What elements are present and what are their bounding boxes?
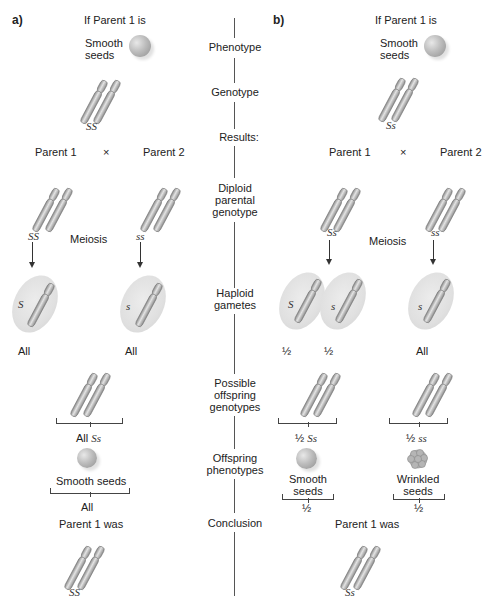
chromosome-pair-icon	[378, 70, 418, 130]
center-label-offspring-phenotypes-2: phenotypes	[195, 464, 275, 477]
smooth-seed-icon	[77, 448, 97, 468]
divider-line	[234, 479, 235, 513]
center-label-possible-3: genotypes	[195, 401, 275, 414]
panel-b-phenotype-line2: seeds	[380, 49, 409, 62]
bracket	[282, 494, 334, 500]
panel-b-offspring1-freq: ½	[302, 502, 311, 515]
panel-a-conclusion-genotype: SS	[69, 586, 80, 599]
panel-a-offspring-genotype-prefix: All	[76, 432, 88, 444]
panel-b-conclusion-label: Parent 1 was	[335, 518, 399, 531]
panel-b-premise: If Parent 1 is	[375, 14, 437, 27]
panel-a-parent1-genotype: SS	[28, 230, 39, 243]
divider-line	[234, 18, 235, 38]
gamete-chromosome-icon	[133, 280, 163, 330]
panel-b-parent1-genotype: Ss	[327, 226, 337, 239]
panel-b-gamete1-freq: ½	[282, 345, 291, 358]
panel-a-offspring-genotype-row: All Ss	[76, 432, 101, 445]
panel-b-offspring2-genotype: ss	[418, 432, 427, 444]
divider-line	[234, 416, 235, 449]
panel-b-gamete3-freq: All	[416, 345, 428, 358]
meiosis-arrow-icon	[433, 240, 434, 260]
bracket	[278, 418, 337, 424]
panel-a-offspring-phenotype-freq: All	[81, 501, 93, 514]
panel-a-phenotype-line2: seeds	[85, 49, 114, 62]
panel-b-offspring2-genotype-row: ½ ss	[406, 432, 427, 445]
parent2-chromosome-pair-icon	[140, 180, 180, 240]
panel-b-parent2-genotype: ss	[431, 226, 440, 239]
panel-b-conclusion-genotype: Ss	[345, 586, 355, 599]
panel-b-gamete1-allele: S	[288, 298, 294, 311]
bracket	[393, 494, 445, 500]
panel-a-gamete2-allele: s	[126, 300, 130, 313]
bracket	[50, 488, 130, 494]
panel-a-conclusion-label: Parent 1 was	[59, 518, 123, 531]
divider-line	[234, 532, 235, 596]
panel-b-meiosis: Meiosis	[369, 235, 406, 248]
panel-b-offspring2-prefix: ½	[406, 432, 415, 444]
center-label-diploid-3: genotype	[195, 206, 275, 219]
panel-b-label: b)	[273, 14, 284, 27]
wrinkled-seed-icon	[406, 447, 430, 471]
parent1-chromosome-pair-icon	[320, 180, 360, 240]
panel-b-offspring1-prefix: ½	[295, 432, 304, 444]
divider-line	[234, 58, 235, 83]
panel-a-gamete2-freq: All	[125, 345, 137, 358]
panel-b-genotype: Ss	[386, 119, 396, 132]
smooth-seed-icon	[424, 35, 446, 57]
panel-b-gamete2-allele: s	[331, 300, 335, 313]
panel-a-premise: If Parent 1 is	[84, 14, 146, 27]
offspring2-chromosome-pair-icon	[412, 365, 452, 425]
meiosis-arrow-icon	[32, 242, 33, 263]
panel-a-offspring-phenotype: Smooth seeds	[56, 475, 126, 488]
panel-b-gamete3-allele: s	[418, 300, 422, 313]
center-label-genotype: Genotype	[195, 86, 275, 99]
bracket	[56, 418, 123, 424]
offspring-chromosome-pair-icon	[70, 365, 110, 425]
gamete-chromosome-icon	[25, 280, 55, 330]
smooth-seed-icon	[129, 35, 151, 57]
center-label-results: Results:	[199, 131, 279, 144]
panel-a-label: a)	[12, 14, 23, 27]
panel-a-cross: ×	[103, 146, 109, 159]
panel-a-genotype: SS	[86, 120, 97, 133]
smooth-seed-icon	[296, 448, 317, 469]
offspring1-chromosome-pair-icon	[300, 365, 340, 425]
panel-a-offspring-genotype: Ss	[91, 432, 101, 444]
center-label-conclusion: Conclusion	[195, 517, 275, 530]
panel-b-offspring1-genotype: Ss	[307, 432, 317, 444]
gamete-chromosome-icon	[292, 276, 322, 326]
panel-a-parent1: Parent 1	[35, 146, 77, 159]
gamete-chromosome-icon	[333, 276, 363, 326]
gamete-chromosome-icon	[421, 276, 451, 326]
meiosis-arrow-icon	[329, 240, 330, 260]
divider-line	[234, 146, 235, 178]
meiosis-arrow-icon	[140, 242, 141, 263]
bracket	[389, 418, 448, 424]
panel-b-cross: ×	[400, 146, 406, 159]
panel-b-parent1: Parent 1	[329, 146, 371, 159]
panel-a-gamete1-allele: S	[18, 298, 24, 311]
divider-line	[234, 102, 235, 129]
panel-a-parent2: Parent 2	[143, 146, 185, 159]
divider-line	[234, 314, 235, 374]
center-label-haploid-2: gametes	[195, 299, 275, 312]
panel-b-gamete2-freq: ½	[324, 345, 333, 358]
center-label-phenotype: Phenotype	[195, 41, 275, 54]
panel-b-offspring1-genotype-row: ½ Ss	[295, 432, 317, 445]
panel-b-parent2: Parent 2	[440, 146, 482, 159]
panel-a-meiosis: Meiosis	[70, 233, 107, 246]
divider-line	[234, 222, 235, 288]
panel-b-offspring2-freq: ½	[414, 502, 423, 515]
panel-a-gamete1-freq: All	[18, 345, 30, 358]
